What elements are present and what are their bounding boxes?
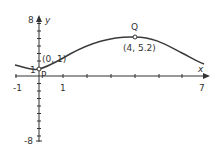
y-axis: 8 1 -8 y [24,15,51,146]
y-tick-label-neg8: -8 [24,136,33,146]
point-p-label: P [41,70,47,80]
x-tick-label-1: 1 [60,83,66,93]
point-p-coord: (0, 1) [42,54,66,64]
x-axis-arrow-icon [203,73,210,79]
y-axis-label: y [44,15,51,25]
function-graph: -1 1 7 x 8 1 -8 y [0,0,214,148]
x-axis-label: x [197,64,204,74]
x-tick-label-neg1: -1 [13,83,22,93]
y-axis-arrow-icon [36,15,42,22]
point-q-label: Q [131,22,138,32]
x-tick-label-7: 7 [199,83,205,93]
point-q-coord: (4, 5.2) [123,43,156,53]
y-tick-label-8: 8 [28,15,34,25]
